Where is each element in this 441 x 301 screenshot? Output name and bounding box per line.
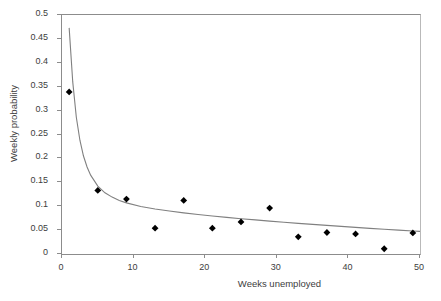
data-point-marker: [324, 229, 331, 236]
x-tick-label: 40: [342, 263, 352, 272]
x-tick-mark: [276, 254, 277, 258]
data-point-marker: [238, 219, 245, 226]
y-tick-mark: [57, 110, 61, 111]
y-tick-mark: [57, 62, 61, 63]
y-tick-mark: [57, 86, 61, 87]
x-tick-label: 0: [58, 263, 63, 272]
y-tick-label: 0: [43, 248, 48, 257]
data-point-marker: [66, 89, 73, 96]
y-tick-label: 0.15: [30, 176, 48, 185]
y-axis-title: Weekly probability: [8, 64, 19, 184]
data-point-marker: [180, 197, 187, 204]
x-tick-label: 30: [271, 263, 281, 272]
y-tick-label: 0.2: [35, 152, 48, 161]
y-tick-label: 0.1: [35, 200, 48, 209]
y-tick-mark: [57, 14, 61, 15]
y-tick-label: 0.45: [30, 33, 48, 42]
y-tick-label: 0.35: [30, 81, 48, 90]
x-tick-mark: [133, 254, 134, 258]
y-tick-mark: [57, 205, 61, 206]
data-point-marker: [295, 233, 302, 240]
fit-curve-group: [69, 28, 420, 231]
y-tick-mark: [57, 157, 61, 158]
y-tick-label: 0.5: [35, 9, 48, 18]
y-tick-label: 0.05: [30, 224, 48, 233]
y-tick-label: 0.25: [30, 129, 48, 138]
data-point-marker: [352, 231, 359, 238]
data-point-marker: [266, 205, 273, 212]
x-axis-title-wrap: Weeks unemployed: [0, 278, 441, 289]
x-axis-title: Weeks unemployed: [238, 278, 321, 289]
x-tick-label: 20: [199, 263, 209, 272]
data-point-marker: [209, 225, 216, 232]
y-tick-label: 0.4: [35, 57, 48, 66]
data-point-marker: [152, 225, 159, 232]
x-tick-label: 50: [414, 263, 424, 272]
x-tick-mark: [61, 254, 62, 258]
y-tick-label: 0.3: [35, 105, 48, 114]
y-tick-mark: [57, 229, 61, 230]
x-tick-mark: [347, 254, 348, 258]
x-tick-label: 10: [128, 263, 138, 272]
data-point-marker: [123, 196, 130, 203]
y-tick-mark: [57, 181, 61, 182]
data-point-marker: [381, 245, 388, 252]
y-tick-mark: [57, 134, 61, 135]
fitted-curve: [69, 28, 420, 231]
x-tick-mark: [419, 254, 420, 258]
plot-area: [61, 14, 421, 255]
plot-svg: [62, 15, 420, 254]
x-tick-mark: [204, 254, 205, 258]
chart-container: 00.050.10.150.20.250.30.350.40.450.5 Wee…: [0, 0, 441, 301]
y-tick-mark: [57, 38, 61, 39]
